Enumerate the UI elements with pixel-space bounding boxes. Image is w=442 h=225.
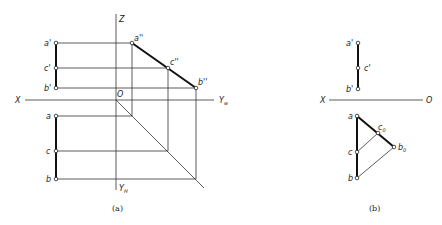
- label-b-b: b: [348, 174, 353, 183]
- label-b-dprime: b'': [198, 78, 207, 87]
- label-yw: Yw: [219, 96, 229, 106]
- figure-a: Z X O Yw YH a' c' b' a'' c'' b'' a c b (…: [14, 14, 229, 213]
- label-c0: c0: [378, 123, 386, 133]
- label-c-dprime: c'': [170, 58, 179, 67]
- line-b-b0: [357, 147, 394, 178]
- label-c: c: [46, 147, 51, 156]
- point-b-prime: [54, 86, 58, 90]
- label-z: Z: [118, 15, 125, 24]
- point-a-prime-b: [356, 41, 360, 45]
- point-a-b: [355, 114, 359, 118]
- caption-a: (a): [112, 204, 123, 213]
- label-b-prime-b: b': [346, 85, 353, 94]
- point-b: [54, 177, 58, 181]
- label-origin-b: O: [426, 96, 432, 105]
- projection-diagram: Z X O Yw YH a' c' b' a'' c'' b'' a c b (…: [0, 0, 442, 225]
- point-c-prime: [54, 66, 58, 70]
- point-c-b: [355, 150, 359, 154]
- point-b-b: [355, 176, 359, 180]
- figure-b: X O a' c' b' a c b c0 b0 (b): [319, 39, 432, 213]
- line-c-c0: [357, 133, 378, 152]
- point-b0: [392, 145, 396, 149]
- point-c: [54, 149, 58, 153]
- point-a: [54, 114, 58, 118]
- label-origin: O: [117, 90, 123, 99]
- point-b-prime-b: [356, 87, 360, 91]
- label-a-prime-b: a': [346, 39, 353, 48]
- 45-degree-line: [116, 100, 204, 188]
- label-a-prime: a': [44, 39, 51, 48]
- label-x: X: [14, 96, 21, 105]
- label-c-b: c: [348, 148, 353, 157]
- label-b: b: [46, 175, 51, 184]
- label-b-prime: b': [44, 84, 51, 93]
- label-yh: YH: [119, 184, 128, 194]
- label-a-dprime: a'': [134, 34, 143, 43]
- label-a-b: a: [348, 112, 353, 121]
- point-a-prime: [54, 41, 58, 45]
- label-c-prime: c': [44, 64, 51, 73]
- caption-b: (b): [369, 204, 380, 213]
- label-b0: b0: [398, 143, 406, 153]
- point-c-prime-b: [356, 66, 360, 70]
- line-ab-side-view: [132, 43, 196, 88]
- label-a: a: [46, 112, 51, 121]
- line-a-b0: [357, 116, 394, 147]
- label-c-prime-b: c': [364, 64, 371, 73]
- label-x-b: X: [319, 96, 326, 105]
